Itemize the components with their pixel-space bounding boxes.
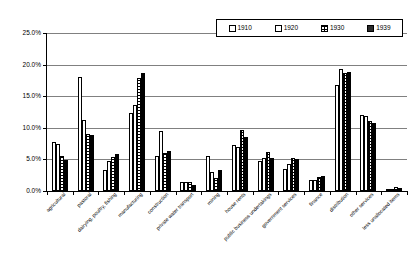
legend-swatch-icon [367, 25, 374, 32]
x-axis-ticks [47, 33, 407, 191]
x-axis-label: house rents [224, 192, 246, 214]
x-axis-label: mining [207, 192, 221, 206]
x-axis-label: manufacturing [117, 192, 143, 218]
legend-swatch-icon [229, 25, 236, 32]
legend-label: 1920 [284, 25, 298, 32]
y-tick-label: 5.0% [26, 156, 41, 163]
legend-entry: 1939 [356, 25, 402, 32]
legend-entry: 1920 [263, 25, 309, 32]
plot-area: 0.0%5.0%10.0%15.0%20.0%25.0% [46, 33, 407, 192]
legend-label: 1939 [376, 25, 390, 32]
x-axis-labels: agriculturalpastoraldairying, poultry, f… [46, 192, 406, 272]
chart-legend: 1910192019301939 [216, 19, 403, 37]
x-tick-mark [407, 191, 408, 195]
legend-entry: 1930 [310, 25, 356, 32]
x-axis-label: public business undertakings [222, 192, 272, 242]
y-tick-label: 20.0% [23, 61, 41, 68]
legend-label: 1930 [330, 25, 344, 32]
x-axis-label: construction [146, 192, 169, 215]
x-axis-label: agricultural [45, 192, 66, 213]
x-axis-label: other services [349, 192, 375, 218]
y-tick-label: 15.0% [23, 93, 41, 100]
x-axis-label: finance [308, 192, 323, 207]
y-tick-label: 10.0% [23, 125, 41, 132]
y-tick-label: 0.0% [26, 188, 41, 195]
legend-entry: 1910 [217, 25, 263, 32]
y-tick-label: 25.0% [23, 30, 41, 37]
x-axis-label: pastoral [76, 192, 92, 208]
legend-swatch-icon [275, 25, 282, 32]
x-axis-label: distribution [328, 192, 349, 213]
bar-chart: 1910192019301939 0.0%5.0%10.0%15.0%20.0%… [0, 0, 416, 273]
legend-label: 1910 [238, 25, 252, 32]
legend-swatch-icon [321, 25, 328, 32]
